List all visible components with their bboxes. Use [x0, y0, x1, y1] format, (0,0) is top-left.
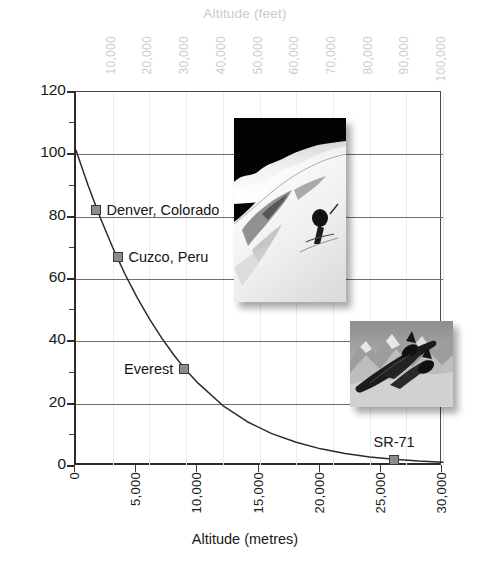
y-major-tick: [67, 153, 74, 155]
x-tick-label: 10,000: [189, 472, 204, 514]
data-point-marker[interactable]: [389, 455, 399, 465]
barometric-pressure-altitude-chart: Altitude (feet) 10,00020,00030,00040,000…: [0, 0, 490, 561]
x-tick-label: 15,000: [250, 472, 265, 514]
x-tick-label: 0: [67, 472, 82, 480]
secondary-x-tick-label: 30,000: [177, 36, 191, 75]
secondary-x-tick-label: 20,000: [140, 36, 154, 75]
plot-area: Denver, ColoradoCuzco, PeruEverestSR-71: [74, 91, 441, 465]
x-tick-label: 20,000: [311, 472, 326, 514]
secondary-x-tick-label: 50,000: [251, 36, 265, 75]
y-tick-label: 40: [26, 330, 66, 348]
y-tick-label: 100: [26, 143, 66, 161]
sr71-blackbird-photo: [350, 321, 453, 407]
x-major-tick: [319, 465, 320, 472]
secondary-x-tick-label: 90,000: [397, 36, 411, 75]
y-major-tick: [67, 340, 74, 342]
data-point-marker[interactable]: [113, 252, 123, 262]
everest-summit-photo: [234, 118, 346, 302]
y-tick-label: 80: [26, 206, 66, 224]
data-point-label: Cuzco, Peru: [129, 249, 209, 265]
y-major-tick: [67, 403, 74, 405]
x-tick-label: 5,000: [128, 472, 143, 506]
y-tick-label: 20: [26, 393, 66, 411]
data-point-label: Denver, Colorado: [107, 202, 220, 218]
x-tick-label: 25,000: [372, 472, 387, 514]
y-major-tick: [67, 91, 74, 93]
data-point-label: SR-71: [374, 434, 415, 450]
x-major-tick: [196, 465, 197, 472]
x-major-tick: [380, 465, 381, 472]
x-major-tick: [258, 465, 259, 472]
y-major-tick: [67, 278, 74, 280]
y-tick-label: 60: [26, 268, 66, 286]
x-tick-label: 30,000: [434, 472, 449, 514]
secondary-x-tick-label: 80,000: [361, 36, 375, 75]
x-axis-title: Altitude (metres): [0, 531, 490, 547]
x-major-tick: [135, 465, 136, 472]
y-tick-label: 120: [26, 81, 66, 99]
x-major-tick: [441, 465, 442, 472]
data-point-label: Everest: [124, 361, 173, 377]
secondary-x-axis-title: Altitude (feet): [0, 6, 490, 21]
y-major-tick: [67, 465, 74, 467]
data-point-marker[interactable]: [179, 364, 189, 374]
secondary-x-tick-label: 70,000: [324, 36, 338, 75]
y-major-tick: [67, 216, 74, 218]
x-major-tick: [74, 465, 75, 472]
secondary-x-tick-label: 60,000: [287, 36, 301, 75]
y-tick-label: 0: [26, 455, 66, 473]
secondary-x-tick-label: 40,000: [214, 36, 228, 75]
secondary-x-tick-label: 100,000: [434, 36, 448, 81]
data-point-marker[interactable]: [91, 205, 101, 215]
vertical-gridline: [443, 92, 444, 466]
secondary-x-tick-label: 10,000: [104, 36, 118, 75]
